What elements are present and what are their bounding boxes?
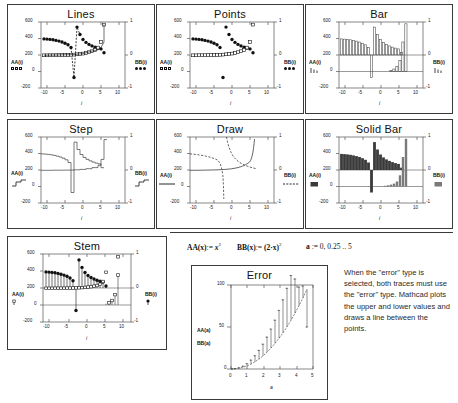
y2tick-step-1: 0 xyxy=(130,167,133,172)
plot-draw[interactable]: AA(i) BB(i) 600 400 200 0 -200 1 0 -1 xyxy=(156,119,304,229)
ytick-step-1: 400 xyxy=(25,150,33,155)
ytick-points-4: -200 xyxy=(170,85,179,90)
ytick-draw-1: 400 xyxy=(174,150,182,155)
ytick-solidbar-1: 400 xyxy=(323,150,331,155)
ytick-bar-1: 400 xyxy=(323,35,331,40)
y2tick-points-2: -1 xyxy=(277,85,281,90)
plot-error[interactable]: AA(a) BB(a) 100 50 xyxy=(191,265,328,400)
ytick-bar-2: 200 xyxy=(323,52,331,57)
definition-range-name: a xyxy=(306,242,310,251)
xtick-points-0: -10 xyxy=(190,91,197,96)
y2tick-solidbar-0: 1 xyxy=(428,134,431,139)
definition-aa-name: AA(x) xyxy=(187,243,207,252)
y2tick-draw-0: 1 xyxy=(279,134,282,139)
plot-stem[interactable]: AA(i) BB(i) xyxy=(7,236,167,350)
xtick-bar-4: 10 xyxy=(413,91,418,96)
xtick-bar-0: -10 xyxy=(339,91,346,96)
plot-canvas-error xyxy=(191,265,328,400)
xtick-stem-2: 0 xyxy=(85,325,88,330)
definition-range[interactable]: a := 0, 0.25 .. 5 xyxy=(306,242,352,251)
ytick-draw-4: -200 xyxy=(170,200,179,205)
xtick-solidbar-2: 0 xyxy=(379,206,382,211)
definition-bb-assign: := xyxy=(256,243,262,252)
definition-bb-exponent: 2 xyxy=(279,242,282,247)
ytick-error-0: 100 xyxy=(217,282,225,287)
y2tick-lines-1: 0 xyxy=(130,52,133,57)
definition-aa-assign: := xyxy=(207,243,213,252)
y2tick-lines-0: 1 xyxy=(130,19,133,24)
y2tick-points-0: 1 xyxy=(279,19,282,24)
ytick-stem-4: -200 xyxy=(23,319,32,324)
xtick-bar-3: 5 xyxy=(397,91,400,96)
xlabel-points: i xyxy=(230,100,231,106)
xtick-error-5: 5 xyxy=(311,374,314,379)
xlabel-draw: i xyxy=(230,215,231,221)
xtick-error-0: 0 xyxy=(229,374,232,379)
ytick-error-2: 0 xyxy=(224,366,227,371)
definition-bb-body: (2·x) xyxy=(264,243,279,252)
y2tick-stem-1: 0 xyxy=(136,285,139,290)
y2tick-stem-0: 1 xyxy=(136,251,139,256)
xtick-step-2: 0 xyxy=(81,206,84,211)
ytick-stem-3: 0 xyxy=(34,302,37,307)
plot-points[interactable]: AA(i) BB(i) xyxy=(156,4,304,114)
xtick-solidbar-3: 5 xyxy=(397,206,400,211)
ytick-lines-4: -200 xyxy=(21,85,30,90)
plot-step[interactable]: AA(i) BB(i) 600 400 200 0 -200 1 0 -1 -1… xyxy=(7,119,155,229)
y2tick-solidbar-2: -1 xyxy=(426,200,430,205)
y2tick-bar-2: -1 xyxy=(426,85,430,90)
ytick-solidbar-4: -200 xyxy=(319,200,328,205)
plot-bar[interactable]: AA(i) BB(i) xyxy=(305,4,453,114)
xtick-draw-3: 5 xyxy=(248,206,251,211)
xtick-stem-3: 5 xyxy=(103,325,106,330)
definition-bb[interactable]: BB(x):= (2·x)2 xyxy=(237,242,281,252)
ytick-draw-0: 600 xyxy=(174,134,182,139)
xtick-solidbar-4: 10 xyxy=(413,206,418,211)
xtick-step-0: -10 xyxy=(41,206,48,211)
ytick-bar-0: 600 xyxy=(323,19,331,24)
ytick-lines-3: 0 xyxy=(32,68,35,73)
xtick-draw-0: -10 xyxy=(190,206,197,211)
xtick-solidbar-0: -10 xyxy=(339,206,346,211)
plot-lines[interactable]: AA(i) BB(i) xyxy=(7,4,155,114)
y2tick-bar-1: 0 xyxy=(428,52,431,57)
ytick-error-1: 50 xyxy=(219,324,224,329)
xlabel-lines: i xyxy=(81,100,82,106)
definition-aa-exponent: 2 xyxy=(219,242,222,247)
definition-range-body: 0, 0.25 .. 5 xyxy=(320,242,352,251)
ytick-points-2: 200 xyxy=(174,52,182,57)
xtick-step-3: 5 xyxy=(99,206,102,211)
ytick-solidbar-3: 0 xyxy=(330,183,333,188)
definition-aa[interactable]: AA(x):= x2 xyxy=(187,242,221,252)
xtick-points-2: 0 xyxy=(230,91,233,96)
y2tick-points-1: 0 xyxy=(279,52,282,57)
xtick-solidbar-1: -5 xyxy=(358,206,362,211)
ytick-solidbar-2: 200 xyxy=(323,167,331,172)
plot-solidbar[interactable]: AA(i) BB(i) xyxy=(305,119,453,229)
xtick-draw-4: 10 xyxy=(264,206,269,211)
ytick-stem-0: 600 xyxy=(27,251,35,256)
xlabel-step: i xyxy=(81,215,82,221)
xtick-step-4: 10 xyxy=(115,206,120,211)
xlabel-bar: i xyxy=(379,100,380,106)
xtick-lines-2: 0 xyxy=(81,91,84,96)
y2tick-solidbar-1: 0 xyxy=(428,167,431,172)
xtick-lines-0: -10 xyxy=(41,91,48,96)
ytick-step-3: 0 xyxy=(32,183,35,188)
xtick-points-3: 5 xyxy=(248,91,251,96)
xtick-error-3: 3 xyxy=(278,374,281,379)
xtick-step-1: -5 xyxy=(60,206,64,211)
definition-range-assign: := xyxy=(312,242,318,251)
xtick-error-1: 1 xyxy=(245,374,248,379)
y2tick-draw-1: 0 xyxy=(279,167,282,172)
xtick-draw-2: 0 xyxy=(230,206,233,211)
xtick-bar-2: 0 xyxy=(379,91,382,96)
ytick-stem-1: 400 xyxy=(27,268,35,273)
xtick-error-2: 2 xyxy=(262,374,265,379)
ytick-bar-4: -200 xyxy=(319,85,328,90)
ytick-points-0: 600 xyxy=(174,19,182,24)
ytick-step-0: 600 xyxy=(25,134,33,139)
xtick-stem-0: -10 xyxy=(43,325,50,330)
xtick-stem-1: -5 xyxy=(64,325,68,330)
xtick-error-4: 4 xyxy=(295,374,298,379)
